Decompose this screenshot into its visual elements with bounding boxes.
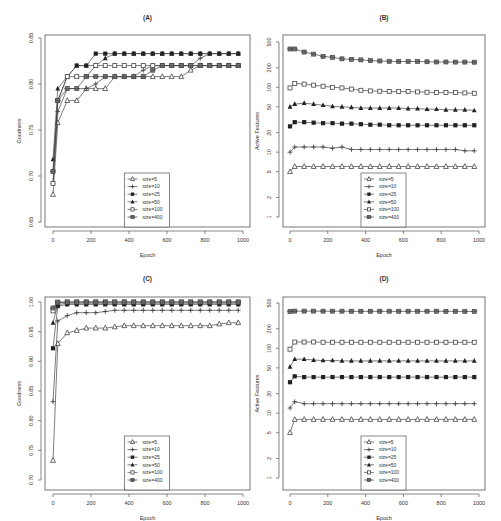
- open-triangle-marker: [377, 417, 382, 422]
- y-axis-label: Goodness: [16, 118, 22, 143]
- filled-square-marker: [463, 123, 467, 127]
- legend-label: size=5: [143, 439, 158, 445]
- plus-marker: [321, 145, 326, 150]
- y-tick-label: 0.85: [28, 386, 34, 397]
- plus-marker: [415, 147, 420, 152]
- y-tick-label: 500: [266, 298, 272, 307]
- open-triangle-marker: [462, 417, 467, 422]
- open-square-marker: [359, 340, 363, 344]
- y-tick-label: 0.75: [28, 445, 34, 456]
- filled-square-marker: [288, 124, 292, 128]
- filled-square-marker: [94, 52, 98, 56]
- open-square-marker: [293, 340, 297, 344]
- open-square-marker: [141, 64, 145, 68]
- open-triangle-marker: [453, 417, 458, 422]
- filled-square-marker: [472, 375, 476, 379]
- y-tick-label: 5: [266, 431, 272, 434]
- plus-marker: [387, 147, 392, 152]
- filled-triangle-marker: [377, 105, 382, 110]
- plus-marker: [387, 401, 392, 406]
- plus-marker: [112, 308, 117, 313]
- filled-square-marker: [434, 123, 438, 127]
- plus-marker: [396, 401, 401, 406]
- filled-square-marker: [415, 375, 419, 379]
- open-triangle-marker: [122, 323, 127, 328]
- legend-label: size=50: [143, 199, 161, 205]
- series-line: [53, 54, 238, 160]
- series-size-400: [50, 64, 241, 174]
- y-tick-label: 10: [266, 410, 272, 416]
- open-triangle-marker: [415, 164, 420, 169]
- filled-square-marker: [406, 375, 410, 379]
- open-square-marker: [359, 88, 363, 92]
- x-axis: 02004006008001000: [51, 231, 249, 243]
- open-triangle-marker: [169, 323, 174, 328]
- plus-marker: [84, 310, 89, 315]
- x-tick-label: 0: [288, 237, 291, 243]
- x-tick-label: 800: [200, 237, 209, 243]
- plus-marker: [131, 308, 136, 313]
- filled-square-marker: [453, 123, 457, 127]
- plus-marker: [425, 401, 430, 406]
- plus-marker: [340, 401, 345, 406]
- y-axis: 0.700.750.800.850.900.951.00: [28, 297, 41, 486]
- filled-triangle-marker: [302, 100, 307, 105]
- open-triangle-marker: [349, 417, 354, 422]
- plus-marker: [103, 309, 108, 314]
- open-square-marker: [416, 90, 420, 94]
- panel-a: (A)02004006008001000Epoch0.650.700.750.8…: [16, 14, 250, 258]
- open-triangle-marker: [425, 417, 430, 422]
- y-tick-label: 1: [266, 476, 272, 479]
- x-tick-label: 0: [51, 237, 54, 243]
- plus-marker: [141, 308, 146, 313]
- filled-square-marker: [302, 120, 306, 124]
- y-axis-label: Active Features: [254, 374, 260, 412]
- open-triangle-marker: [302, 164, 307, 169]
- plus-marker: [302, 145, 307, 150]
- open-triangle-marker: [311, 417, 316, 422]
- series-line: [290, 402, 474, 408]
- filled-triangle-marker: [330, 358, 335, 363]
- open-triangle-marker: [236, 320, 241, 325]
- x-axis: 02004006008001000: [288, 231, 485, 243]
- filled-triangle-marker: [434, 358, 439, 363]
- plus-marker: [368, 401, 373, 406]
- filled-square-marker: [340, 122, 344, 126]
- filled-square-marker: [387, 375, 391, 379]
- plus-marker: [368, 147, 373, 152]
- legend: size=5size=10size=25size=50size=100size=…: [361, 436, 406, 490]
- panel-title: (D): [379, 275, 388, 283]
- plus-marker: [207, 308, 212, 313]
- y-tick-label: 0.70: [28, 475, 34, 486]
- filled-square-marker: [444, 123, 448, 127]
- filled-square-marker: [367, 456, 370, 459]
- filled-triangle-marker: [425, 358, 430, 363]
- open-square-marker: [103, 64, 107, 68]
- y-tick-label: 50: [266, 365, 272, 371]
- open-square-marker: [131, 208, 134, 211]
- x-tick-label: 200: [86, 237, 95, 243]
- legend-label: size=400: [143, 214, 163, 220]
- open-square-marker: [416, 340, 420, 344]
- open-triangle-marker: [179, 74, 184, 79]
- plus-marker: [74, 310, 79, 315]
- open-triangle-marker: [349, 164, 354, 169]
- plus-marker: [472, 148, 477, 153]
- filled-triangle-marker: [349, 358, 354, 363]
- x-tick-label: 1000: [237, 500, 249, 506]
- x-tick-label: 400: [124, 237, 133, 243]
- legend-label: size=100: [143, 206, 163, 212]
- y-tick-label: 200: [266, 63, 272, 72]
- open-square-marker: [378, 89, 382, 93]
- series-size-25: [51, 302, 240, 350]
- y-tick-label: 0.90: [28, 356, 34, 367]
- open-triangle-marker: [396, 417, 401, 422]
- plus-marker: [311, 145, 316, 150]
- x-tick-label: 800: [200, 500, 209, 506]
- plus-marker: [358, 147, 363, 152]
- open-square-marker: [340, 340, 344, 344]
- open-triangle-marker: [340, 164, 345, 169]
- legend-label: size=100: [143, 469, 163, 475]
- filled-triangle-marker: [462, 107, 467, 112]
- plus-marker: [396, 147, 401, 152]
